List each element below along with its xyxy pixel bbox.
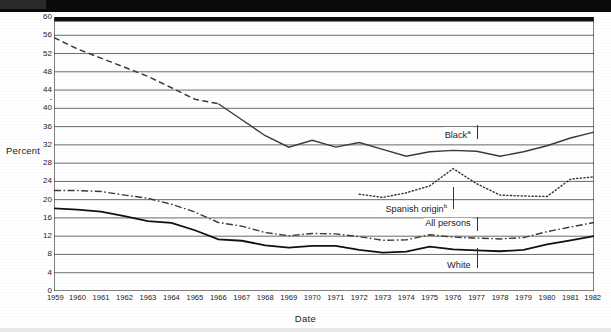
- x-axis-tick-labels: 1959196019611962196319641965196619671968…: [0, 293, 611, 307]
- x-tick-label: 1975: [421, 293, 438, 302]
- x-tick-label: 1960: [69, 293, 86, 302]
- x-tick-label: 1969: [280, 293, 297, 302]
- y-tick-label: 48: [36, 68, 52, 76]
- series-label-text: Spanish origin: [385, 204, 443, 214]
- series-label-black: Blacka: [443, 127, 473, 140]
- y-tick-label: 28: [36, 159, 52, 167]
- x-tick-label: 1962: [116, 293, 133, 302]
- x-tick-label: 1973: [374, 293, 391, 302]
- y-tick-label: 24: [36, 177, 52, 185]
- scan-artifact-top-bar: [0, 0, 611, 12]
- x-tick-label: 1966: [210, 293, 227, 302]
- y-tick-label: 52: [36, 50, 52, 58]
- x-tick-label: 1978: [492, 293, 509, 302]
- series-line-black-dashed: [54, 38, 218, 104]
- y-axis-tick-labels: 04812162024283236404448525660-: [32, 17, 52, 291]
- y-tick-label: 4: [36, 269, 52, 277]
- chart-page: Percent Date 048121620242832364044485256…: [0, 0, 611, 332]
- series-line-spanish-origin: [359, 169, 594, 198]
- top-band: [54, 17, 594, 22]
- series-label-white: White: [445, 260, 473, 270]
- y-tick-label: 60: [36, 13, 52, 21]
- annotation-leader-tick: [453, 187, 454, 209]
- series-label-text: All persons: [425, 218, 470, 228]
- y-tick-label: 44: [36, 86, 52, 94]
- x-tick-label: 1972: [351, 293, 368, 302]
- x-tick-label: 1971: [327, 293, 344, 302]
- y-tick-label: 56: [36, 31, 52, 39]
- y-tick-label: 8: [36, 250, 52, 258]
- series-line-black: [218, 104, 594, 157]
- x-tick-label: 1964: [163, 293, 180, 302]
- series-label-all-persons: All persons: [423, 218, 472, 228]
- x-tick-label: 1967: [233, 293, 250, 302]
- y-tick-label: 12: [36, 232, 52, 240]
- series-line-white: [54, 208, 594, 252]
- plot-area: [54, 17, 594, 291]
- page-bottom-edge: [0, 328, 611, 332]
- x-tick-label: 1981: [562, 293, 579, 302]
- annotation-leader-tick: [477, 248, 478, 268]
- x-tick-label: 1959: [47, 293, 64, 302]
- x-tick-label: 1977: [468, 293, 485, 302]
- series-label-spanish-origin: Spanish originb: [383, 201, 449, 214]
- x-tick-label: 1980: [539, 293, 556, 302]
- annotation-leader-tick: [477, 125, 478, 139]
- series-label-text: White: [447, 260, 471, 270]
- scan-artifact-dash: -: [36, 95, 52, 103]
- series-label-text: Black: [445, 131, 467, 141]
- x-tick-label: 1965: [186, 293, 203, 302]
- y-tick-label: 36: [36, 123, 52, 131]
- y-tick-label: 16: [36, 214, 52, 222]
- annotation-leader-tick: [477, 217, 478, 231]
- x-axis-label: Date: [0, 313, 611, 324]
- x-tick-label: 1970: [304, 293, 321, 302]
- x-tick-label: 1963: [139, 293, 156, 302]
- series-label-footnote-marker: a: [467, 128, 470, 135]
- x-tick-label: 1968: [257, 293, 274, 302]
- series-line-all-persons: [54, 191, 594, 241]
- x-tick-label: 1979: [515, 293, 532, 302]
- scan-artifact-noise: [0, 0, 46, 9]
- x-tick-label: 1974: [398, 293, 415, 302]
- y-tick-label: 40: [36, 104, 52, 112]
- x-tick-label: 1982: [584, 293, 601, 302]
- y-tick-label: 20: [36, 196, 52, 204]
- series-label-footnote-marker: b: [444, 202, 447, 209]
- chart-svg: [54, 17, 594, 291]
- x-tick-label: 1961: [93, 293, 110, 302]
- x-tick-label: 1976: [445, 293, 462, 302]
- y-tick-label: 32: [36, 141, 52, 149]
